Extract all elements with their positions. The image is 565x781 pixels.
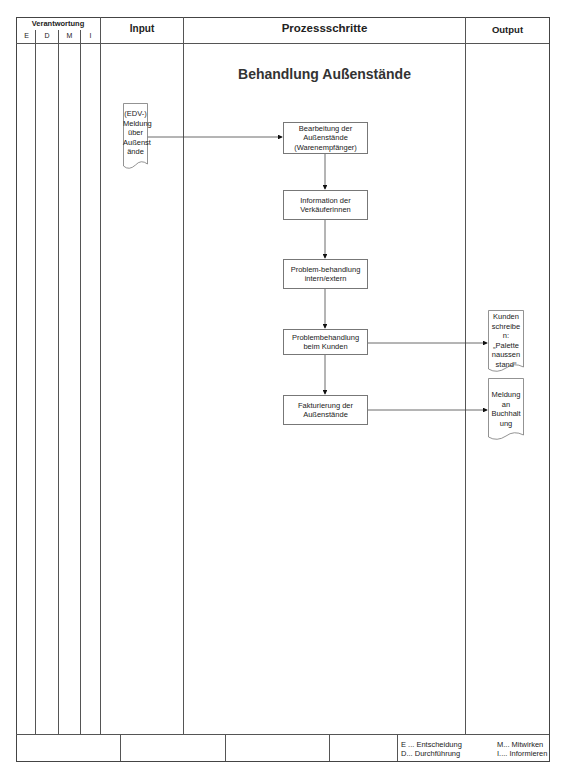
output-doc-line: stand“	[488, 360, 524, 370]
legend-m: M... Mitwirken	[497, 740, 543, 749]
legend-d: D... Durchführung	[401, 749, 460, 758]
input-doc-line: über	[123, 128, 148, 138]
step-text: Verkäuferinnen	[300, 205, 350, 215]
process-step-bearbeitung: Bearbeitung der Außenstände (Warenempfän…	[283, 122, 368, 154]
input-doc-line: Meldung	[123, 119, 148, 129]
output-doc-line: Meldung	[488, 390, 524, 400]
output-doc-line: „Palette	[488, 341, 524, 351]
input-doc-line: Außenst	[123, 138, 148, 148]
step-text: beim Kunden	[303, 342, 347, 352]
legend-i: I.... Informieren	[497, 749, 547, 758]
process-step-problem-kunden: Problembehandlung beim Kunden	[283, 329, 368, 355]
output-doc-line: Buchhalt	[488, 409, 524, 419]
flow-connectors	[0, 0, 565, 781]
process-step-information: Information der Verkäuferinnen	[283, 190, 368, 220]
step-text: Problembehandlung	[292, 333, 359, 343]
step-text: Fakturierung der	[298, 401, 353, 411]
step-text: Bearbeitung der	[299, 124, 352, 134]
step-text: Außenstände	[303, 410, 348, 420]
output-doc-line: Kunden	[488, 312, 524, 322]
output-doc-line: an	[488, 400, 524, 410]
output-document-kunden-schreiben: Kunden schreibe n: „Palette naussen stan…	[488, 310, 524, 374]
output-doc-line: naussen	[488, 350, 524, 360]
step-text: (Warenempfänger)	[294, 143, 357, 153]
output-doc-line: schreibe	[488, 322, 524, 332]
output-doc-line: ung	[488, 419, 524, 429]
input-doc-line: (EDV-)	[123, 109, 148, 119]
step-text: Information der	[300, 196, 350, 206]
input-doc-line: ände	[123, 147, 148, 157]
input-document-edv-meldung: (EDV-) Meldung über Außenst ände	[123, 103, 148, 171]
process-step-fakturierung: Fakturierung der Außenstände	[283, 395, 368, 425]
legend-e: E ... Entscheidung	[401, 740, 462, 749]
step-text: intern/extern	[305, 274, 347, 284]
step-text: Problem-behandlung	[291, 265, 361, 275]
output-document-meldung-buchhaltung: Meldung an Buchhalt ung	[488, 378, 524, 442]
process-step-problem-intern-extern: Problem-behandlung intern/extern	[283, 259, 368, 289]
output-doc-line: n:	[488, 331, 524, 341]
step-text: Außenstände	[303, 133, 348, 143]
